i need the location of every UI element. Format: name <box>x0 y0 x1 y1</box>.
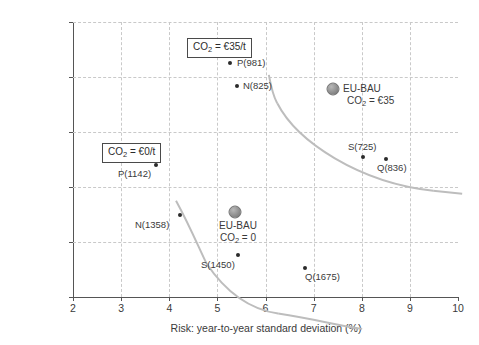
eu-bau-marker-co2-0[interactable] <box>229 206 242 219</box>
x-tick-label-6: 6 <box>263 302 269 314</box>
x-tick-2 <box>73 297 74 301</box>
co2-0-annotation-box: CO2 = €0/t <box>102 143 161 163</box>
point-label-p1142: P(1142) <box>118 168 151 179</box>
point-label-n825: N(825) <box>243 80 272 91</box>
x-tick-label-7: 7 <box>311 302 317 314</box>
curve-co2-0-upper <box>176 201 206 263</box>
co2-35-annotation-box: CO2 = €35/t <box>187 38 252 58</box>
x-tick-label-5: 5 <box>214 302 220 314</box>
x-tick-3 <box>121 297 122 301</box>
eu-bau-label-co2-0: EU-BAU CO2 = 0 <box>210 220 266 245</box>
x-tick-5 <box>217 297 218 301</box>
point-label-q1675: Q(1675) <box>305 271 340 282</box>
gridline-y-0060 <box>73 77 458 78</box>
gridline-x-9 <box>410 22 411 297</box>
gridline-y-0055 <box>73 132 458 133</box>
x-tick-label-9: 9 <box>407 302 413 314</box>
point-s1450[interactable] <box>236 253 240 257</box>
y-tick-0045 <box>69 242 73 243</box>
point-n1358[interactable] <box>178 213 182 217</box>
x-tick-6 <box>266 297 267 301</box>
x-tick-4 <box>169 297 170 301</box>
y-tick-0060 <box>69 77 73 78</box>
point-q836[interactable] <box>384 157 388 161</box>
gridline-x-6 <box>266 22 267 297</box>
y-tick-0050 <box>69 187 73 188</box>
x-axis-title: Risk: year-to-year standard deviation (%… <box>73 322 459 334</box>
gridline-y-0050 <box>73 187 458 188</box>
point-n825[interactable] <box>235 84 239 88</box>
gridline-y-0065 <box>73 22 458 23</box>
point-label-s1450: S(1450) <box>201 259 235 270</box>
x-tick-9 <box>410 297 411 301</box>
x-tick-label-8: 8 <box>359 302 365 314</box>
frontier-curves <box>73 22 479 345</box>
x-tick-label-10: 10 <box>452 302 464 314</box>
chart-figure: Cost (€/kWh) Risk: year-to-year standard… <box>0 0 479 345</box>
gridline-x-7 <box>314 22 315 297</box>
x-tick-label-4: 4 <box>166 302 172 314</box>
gridline-x-8 <box>362 22 363 297</box>
point-q1675[interactable] <box>303 266 307 270</box>
eu-bau-label-co2-35-line2: CO2 = €35 <box>343 95 394 108</box>
eu-bau-label-co2-35-line1: EU-BAU <box>343 83 381 94</box>
x-tick-7 <box>314 297 315 301</box>
y-tick-0065 <box>69 22 73 23</box>
eu-bau-label-co2-35: EU-BAU CO2 = €35 <box>343 83 394 108</box>
point-label-s725: S(725) <box>348 141 377 152</box>
plot-area: 0.065 0.060 0.055 0.050 0.045 0.040 2 3 … <box>73 22 458 297</box>
x-tick-label-3: 3 <box>118 302 124 314</box>
gridline-x-4 <box>169 22 170 297</box>
x-tick-label-2: 2 <box>70 302 76 314</box>
eu-bau-marker-co2-35[interactable] <box>327 83 340 96</box>
point-p981[interactable] <box>228 61 232 65</box>
x-tick-10 <box>458 297 459 301</box>
point-label-n1358: N(1358) <box>135 219 169 230</box>
point-s725[interactable] <box>361 155 365 159</box>
x-tick-8 <box>362 297 363 301</box>
gridline-x-5 <box>217 22 218 297</box>
point-label-q836: Q(836) <box>377 162 407 173</box>
y-tick-0055 <box>69 132 73 133</box>
eu-bau-label-co2-0-line2: CO2 = 0 <box>210 232 266 245</box>
point-label-p981: P(981) <box>237 57 266 68</box>
eu-bau-label-co2-0-line1: EU-BAU <box>219 220 257 231</box>
point-p1142[interactable] <box>154 163 158 167</box>
curve-co2-35-tail <box>433 191 462 194</box>
